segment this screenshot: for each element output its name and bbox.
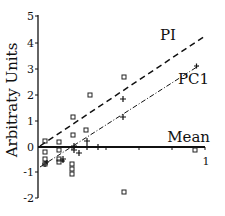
- svg-text:4: 4: [27, 37, 34, 50]
- svg-text:2: 2: [27, 89, 34, 102]
- pc1-line: [40, 65, 200, 167]
- svg-text:3: 3: [27, 63, 34, 76]
- mean-label: Mean: [167, 128, 210, 146]
- y-axis-label: Arbitraty Units: [3, 43, 21, 159]
- svg-text:-1: -1: [23, 166, 34, 179]
- x-tick-label-1: 1: [203, 155, 210, 168]
- scatter-chart: 5 4 3 2 1 0 -1 -2 Arbitraty Units 1 Mean…: [0, 0, 225, 216]
- pc1-label: PC1: [178, 70, 209, 88]
- pc1-points: [42, 64, 199, 168]
- y-tick-labels: 5 4 3 2 1 0 -1 -2: [23, 10, 34, 205]
- svg-text:1: 1: [27, 115, 34, 128]
- svg-text:-2: -2: [23, 192, 34, 205]
- pi-label: PI: [160, 26, 176, 44]
- svg-text:0: 0: [27, 141, 34, 154]
- svg-text:5: 5: [27, 10, 34, 23]
